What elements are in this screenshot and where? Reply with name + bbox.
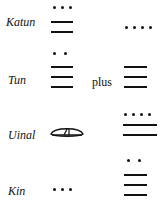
dot-icon bbox=[138, 159, 141, 162]
dot-icon bbox=[69, 188, 72, 191]
dot-icon bbox=[148, 113, 151, 116]
dot-icon bbox=[133, 26, 136, 29]
dot-icon bbox=[127, 159, 130, 162]
dot-icon bbox=[64, 52, 67, 55]
dot-icon bbox=[53, 188, 56, 191]
bar-icon bbox=[51, 21, 73, 23]
row-label-kin: Kin bbox=[8, 184, 25, 198]
bar-icon bbox=[51, 76, 73, 78]
dot-icon bbox=[53, 6, 56, 9]
plus-connector: plus bbox=[92, 75, 112, 89]
bar-icon bbox=[51, 86, 73, 88]
dot-icon bbox=[61, 6, 64, 9]
bar-icon bbox=[51, 31, 73, 33]
dot-icon bbox=[69, 6, 72, 9]
bar-icon bbox=[123, 134, 157, 136]
dot-icon bbox=[141, 26, 144, 29]
dot-icon bbox=[53, 52, 56, 55]
bar-icon bbox=[123, 124, 157, 126]
dot-icon bbox=[61, 188, 64, 191]
bar-icon bbox=[124, 76, 147, 78]
bar-icon bbox=[124, 86, 147, 88]
row-label-tun: Tun bbox=[8, 73, 26, 87]
row-label-katun: Katun bbox=[6, 15, 35, 29]
bar-icon bbox=[124, 66, 147, 68]
dot-icon bbox=[132, 113, 135, 116]
bar-icon bbox=[124, 184, 147, 186]
bar-icon bbox=[124, 174, 147, 176]
bar-icon bbox=[124, 194, 147, 196]
bar-icon bbox=[51, 66, 73, 68]
dot-icon bbox=[125, 26, 128, 29]
row-label-uinal: Uinal bbox=[8, 128, 35, 142]
dot-icon bbox=[140, 113, 143, 116]
dot-icon bbox=[149, 26, 152, 29]
dot-icon bbox=[124, 113, 127, 116]
shell-zero-icon bbox=[48, 124, 86, 140]
